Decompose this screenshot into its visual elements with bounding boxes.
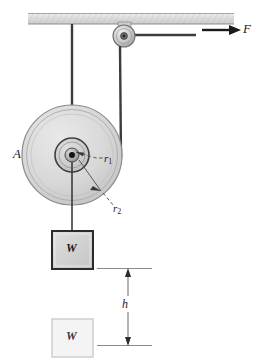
label-weight-lower: W — [66, 330, 77, 342]
diagram-svg — [0, 0, 264, 362]
label-height-h: h — [122, 298, 128, 310]
label-outer-radius-r2: r2 — [113, 203, 121, 216]
label-r2-subscript: 2 — [117, 207, 121, 216]
small-pulley-icon — [113, 25, 135, 47]
label-disk-A: A — [13, 147, 21, 160]
figure-canvas: A F h r1 r2 W W — [0, 0, 264, 362]
label-weight-upper: W — [66, 242, 77, 254]
label-r1-subscript: 1 — [108, 157, 112, 166]
label-force-F: F — [243, 22, 251, 35]
label-inner-radius-r1: r1 — [104, 153, 112, 166]
force-arrow-icon — [202, 25, 241, 35]
axle-hub-icon — [65, 148, 79, 162]
